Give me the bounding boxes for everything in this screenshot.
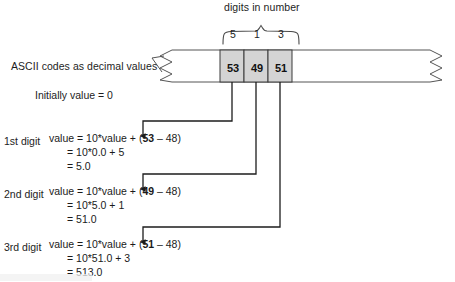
tape-cell-value-2: 51 [269, 62, 293, 74]
step-3-line1-post: – 48) [154, 238, 181, 250]
tape-cell-value-1: 49 [245, 62, 269, 74]
diagram-canvas: digits in number 5 1 3 ASCII codes as de… [0, 0, 455, 282]
initial-value-label: Initially value = 0 [35, 89, 113, 101]
step-formula-2-line-1: value = 10*value + (49 – 48) [49, 184, 181, 198]
step-formula-2-line-2: = 10*5.0 + 1 [49, 198, 181, 212]
digit-label-0: 5 [225, 28, 241, 40]
step-formula-1-line-1: value = 10*value + (53 – 48) [49, 131, 181, 145]
digit-label-1: 1 [249, 28, 265, 40]
step-formula-2: value = 10*value + (49 – 48) = 10*5.0 + … [49, 184, 181, 227]
digit-label-2: 3 [273, 28, 289, 40]
ascii-tape-label: ASCII codes as decimal values [11, 60, 157, 72]
step-formula-3-line-2: = 10*51.0 + 3 [49, 251, 181, 265]
step-3-line1-code: 51 [142, 238, 154, 250]
step-formula-1-line-2: = 10*0.0 + 5 [49, 145, 181, 159]
step-2-line1-pre: value = 10*value + ( [49, 185, 142, 197]
step-name-3: 3rd digit [4, 241, 41, 253]
digits-in-number-caption: digits in number [224, 1, 300, 13]
step-name-1: 1st digit [4, 135, 40, 147]
step-formula-1-line-3: = 5.0 [49, 159, 181, 173]
step-1-line1-pre: value = 10*value + ( [49, 132, 142, 144]
step-3-line1-pre: value = 10*value + ( [49, 238, 142, 250]
tape-cell-value-0: 53 [221, 62, 245, 74]
connector-step-1 [143, 82, 232, 136]
step-name-2: 2nd digit [4, 188, 44, 200]
ascii-tape [160, 50, 442, 82]
step-formula-3-line-1: value = 10*value + (51 – 48) [49, 237, 181, 251]
step-1-line1-code: 53 [142, 132, 154, 144]
step-2-line1-code: 49 [142, 185, 154, 197]
step-2-line1-post: – 48) [154, 185, 181, 197]
scan-artifact [0, 274, 92, 281]
step-formula-1: value = 10*value + (53 – 48) = 10*0.0 + … [49, 131, 181, 174]
step-1-line1-post: – 48) [154, 132, 181, 144]
step-formula-2-line-3: = 51.0 [49, 212, 181, 226]
